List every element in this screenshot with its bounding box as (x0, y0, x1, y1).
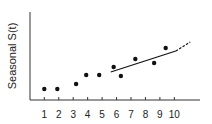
x-tick-label: 2 (56, 109, 62, 120)
data-point (111, 65, 115, 69)
data-point (133, 57, 137, 61)
data-point (84, 73, 88, 77)
x-tick-label: 5 (99, 109, 105, 120)
data-points (42, 46, 168, 91)
data-point (97, 73, 101, 77)
x-tick-label: 4 (85, 109, 91, 120)
x-tick-label: 8 (143, 109, 149, 120)
x-tick-label: 1 (42, 109, 48, 120)
x-tick-label: 7 (128, 109, 134, 120)
x-tick-label: 3 (70, 109, 76, 120)
x-tick-label: 10 (169, 109, 181, 120)
trend-lines (111, 42, 190, 72)
data-point (42, 87, 46, 91)
x-axis-tick-labels: 12345678910 (42, 109, 181, 120)
data-point (163, 46, 167, 50)
trend-solid-line (111, 51, 176, 72)
y-axis-title: Seasonal S(t) (6, 23, 18, 90)
data-point (74, 82, 78, 86)
x-tick-label: 6 (114, 109, 120, 120)
seasonal-chart: Seasonal S(t) 12345678910 (0, 0, 212, 124)
data-point (119, 74, 123, 78)
trend-extrapolated-line (176, 42, 190, 51)
x-tick-label: 9 (157, 109, 163, 120)
data-point (152, 61, 156, 65)
y-axis-label: Seasonal S(t) (6, 23, 18, 90)
data-point (55, 87, 59, 91)
